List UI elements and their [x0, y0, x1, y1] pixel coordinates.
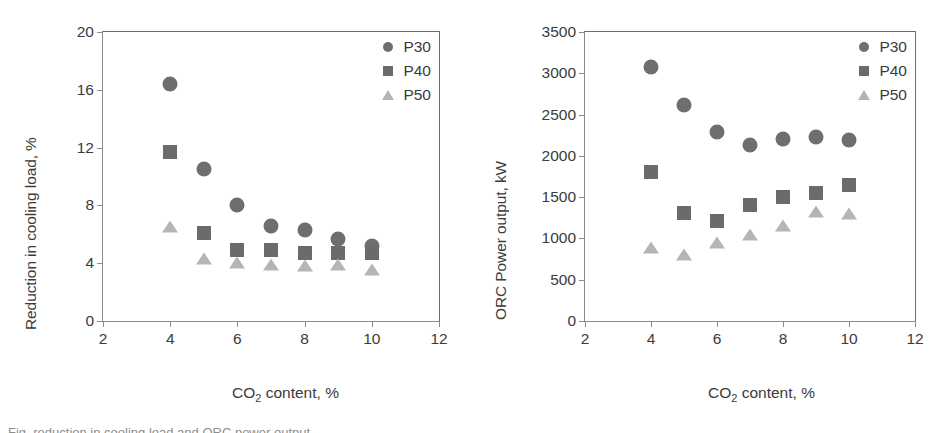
x-tick-label-left-1: 4 — [166, 330, 175, 348]
x-tick-label-right-3: 8 — [779, 330, 788, 348]
data-point-right-P50-8 — [775, 220, 791, 232]
triangle-glyph — [858, 90, 870, 100]
chart-panel-right: ORC Power output, kW CO2 content, % P30P… — [470, 0, 951, 433]
data-point-right-P40-7 — [743, 198, 757, 212]
y-tick-label-right-7: 3500 — [542, 23, 576, 41]
circle-marker-icon — [380, 39, 396, 55]
legend-item-right-P30[interactable]: P30 — [856, 37, 907, 56]
data-point-left-P50-8 — [297, 259, 313, 271]
y-tick-right-3 — [579, 197, 585, 198]
data-point-right-P40-9 — [809, 186, 823, 200]
data-point-left-P50-5 — [196, 252, 212, 264]
triangle-marker-icon — [856, 87, 872, 103]
y-tick-label-left-1: 4 — [85, 254, 94, 272]
data-point-left-P30-9 — [331, 231, 346, 246]
data-point-right-P40-8 — [776, 190, 790, 204]
x-tick-right-5 — [915, 321, 916, 327]
data-point-right-P30-10 — [842, 132, 857, 147]
data-point-right-P50-5 — [676, 248, 692, 260]
data-point-right-P50-6 — [709, 237, 725, 249]
legend-label-right-P40: P40 — [879, 63, 907, 79]
x-tick-left-0 — [103, 321, 104, 327]
legend-label-right-P50: P50 — [879, 87, 907, 103]
legend-item-left-P50[interactable]: P50 — [380, 85, 431, 104]
y-tick-label-right-3: 1500 — [542, 188, 576, 206]
y-tick-right-5 — [579, 115, 585, 116]
plot-area-left: P30P40P50 04812162024681012 — [102, 31, 440, 322]
y-tick-label-right-6: 3000 — [542, 64, 576, 82]
y-tick-right-4 — [579, 156, 585, 157]
data-point-right-P50-7 — [742, 229, 758, 241]
data-point-right-P30-5 — [677, 97, 692, 112]
legend-right: P30P40P50 — [856, 37, 907, 104]
y-tick-right-6 — [579, 73, 585, 74]
square-marker-icon — [380, 63, 396, 79]
x-tick-left-1 — [170, 321, 171, 327]
data-point-right-P50-9 — [808, 205, 824, 217]
data-point-right-P40-4 — [644, 165, 658, 179]
square-glyph — [383, 66, 393, 76]
legend-label-left-P40: P40 — [403, 63, 431, 79]
x-axis-title-left: CO2 content, % — [232, 384, 339, 404]
data-point-left-P50-7 — [263, 258, 279, 270]
data-point-right-P30-6 — [710, 124, 725, 139]
x-axis-title-right: CO2 content, % — [708, 384, 815, 404]
y-tick-left-4 — [97, 90, 103, 91]
x-tick-left-4 — [372, 321, 373, 327]
circle-glyph — [859, 42, 869, 52]
data-point-left-P30-4 — [163, 77, 178, 92]
data-point-left-P30-5 — [196, 162, 211, 177]
data-point-left-P50-10 — [364, 264, 380, 276]
circle-marker-icon — [856, 39, 872, 55]
x-tick-label-left-2: 6 — [233, 330, 242, 348]
x-tick-left-3 — [305, 321, 306, 327]
data-point-left-P40-7 — [264, 243, 278, 257]
data-point-left-P40-10 — [365, 246, 379, 260]
y-tick-label-right-4: 2000 — [542, 147, 576, 165]
legend-item-right-P50[interactable]: P50 — [856, 85, 907, 104]
y-tick-label-left-4: 16 — [77, 81, 94, 99]
x-tick-label-left-5: 12 — [430, 330, 447, 348]
x-axis-title-left-prefix: CO — [232, 384, 255, 401]
data-point-right-P30-7 — [743, 138, 758, 153]
y-tick-left-2 — [97, 205, 103, 206]
legend-label-left-P30: P30 — [403, 39, 431, 55]
x-axis-title-left-suffix: content, % — [261, 384, 339, 401]
legend-item-left-P30[interactable]: P30 — [380, 37, 431, 56]
y-tick-right-7 — [579, 32, 585, 33]
x-tick-right-4 — [849, 321, 850, 327]
y-tick-label-right-5: 2500 — [542, 106, 576, 124]
data-point-left-P30-7 — [264, 218, 279, 233]
legend-item-left-P40[interactable]: P40 — [380, 61, 431, 80]
y-axis-title-right: ORC Power output, kW — [492, 161, 510, 320]
data-point-left-P40-5 — [197, 226, 211, 240]
x-axis-title-right-suffix: content, % — [737, 384, 815, 401]
x-tick-label-left-4: 10 — [363, 330, 380, 348]
legend-label-left-P50: P50 — [403, 87, 431, 103]
data-point-right-P30-9 — [809, 129, 824, 144]
data-point-right-P50-10 — [841, 207, 857, 219]
y-tick-label-left-0: 0 — [85, 312, 94, 330]
legend-item-right-P40[interactable]: P40 — [856, 61, 907, 80]
data-point-left-P40-4 — [163, 145, 177, 159]
triangle-glyph — [382, 90, 394, 100]
data-point-right-P30-8 — [776, 132, 791, 147]
y-tick-label-right-1: 500 — [550, 271, 576, 289]
square-marker-icon — [856, 63, 872, 79]
x-tick-left-5 — [439, 321, 440, 327]
y-tick-label-left-5: 20 — [77, 23, 94, 41]
plot-area-right: P30P40P50 050010001500200025003000350024… — [584, 31, 916, 322]
legend-label-right-P30: P30 — [879, 39, 907, 55]
data-point-right-P30-4 — [644, 59, 659, 74]
x-tick-label-right-5: 12 — [906, 330, 923, 348]
x-tick-label-left-3: 8 — [300, 330, 309, 348]
x-tick-label-left-0: 2 — [99, 330, 108, 348]
data-point-right-P40-6 — [710, 214, 724, 228]
y-tick-label-left-2: 8 — [85, 196, 94, 214]
y-tick-right-2 — [579, 238, 585, 239]
y-tick-left-5 — [97, 32, 103, 33]
x-tick-right-0 — [585, 321, 586, 327]
data-point-left-P30-8 — [297, 222, 312, 237]
x-tick-label-right-2: 6 — [713, 330, 722, 348]
data-point-left-P50-6 — [229, 257, 245, 269]
